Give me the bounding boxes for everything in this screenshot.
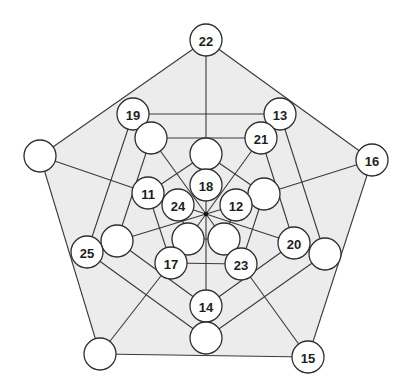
node-label: 24 [171, 199, 186, 214]
node-circle [190, 322, 222, 354]
node-label: 21 [254, 132, 268, 147]
node-circle [84, 338, 116, 370]
node-unlabeled [190, 322, 222, 354]
node-11: 11 [132, 177, 164, 209]
node-12: 12 [220, 189, 252, 221]
node-label: 25 [80, 246, 94, 261]
node-unlabeled [135, 122, 167, 154]
node-18: 18 [190, 169, 222, 201]
node-label: 15 [301, 351, 315, 366]
node-label: 22 [199, 34, 213, 49]
node-unlabeled [101, 225, 133, 257]
node-23: 23 [225, 248, 257, 280]
node-label: 19 [126, 108, 140, 123]
node-15: 15 [292, 341, 324, 373]
node-circle [309, 238, 341, 270]
node-circle [101, 225, 133, 257]
node-14: 14 [190, 290, 222, 322]
node-label: 11 [141, 187, 155, 202]
node-unlabeled [248, 178, 280, 210]
node-16: 16 [356, 144, 388, 176]
node-circle [248, 178, 280, 210]
node-label: 16 [365, 154, 379, 169]
node-circle [24, 140, 56, 172]
node-unlabeled [190, 138, 222, 170]
graph-diagram: 221913211618112412202517231415 [0, 0, 412, 391]
node-circle [135, 122, 167, 154]
node-circle [190, 138, 222, 170]
node-21: 21 [245, 122, 277, 154]
node-25: 25 [71, 236, 103, 268]
node-label: 14 [199, 300, 214, 315]
node-22: 22 [190, 24, 222, 56]
center-hub [204, 212, 208, 216]
node-label: 13 [273, 108, 287, 123]
node-label: 12 [229, 199, 243, 214]
node-20: 20 [278, 227, 310, 259]
node-unlabeled [24, 140, 56, 172]
node-label: 18 [199, 179, 213, 194]
node-unlabeled [84, 338, 116, 370]
node-unlabeled [309, 238, 341, 270]
node-label: 17 [164, 257, 178, 272]
node-label: 20 [287, 237, 301, 252]
node-label: 23 [234, 258, 248, 273]
node-17: 17 [155, 247, 187, 279]
node-24: 24 [162, 189, 194, 221]
